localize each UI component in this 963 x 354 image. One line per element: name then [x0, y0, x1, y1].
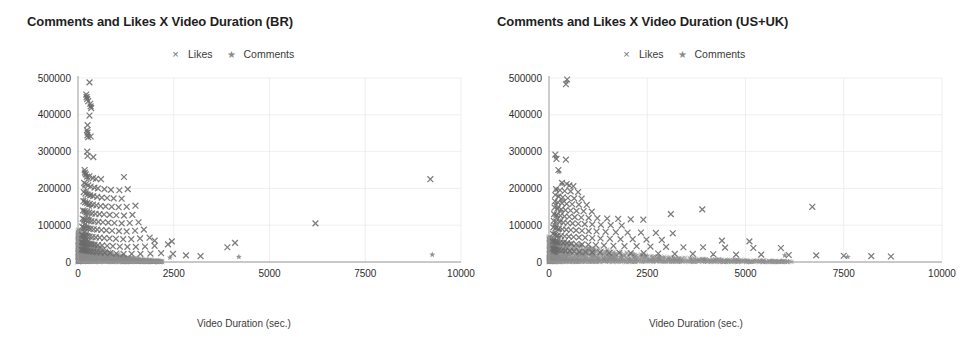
svg-text:0: 0 [75, 268, 81, 279]
legend-br: × Likes ★ Comments [170, 48, 294, 60]
legend-item-likes[interactable]: × Likes [170, 48, 213, 60]
legend-item-likes[interactable]: × Likes [621, 48, 664, 60]
legend-item-comments[interactable]: ★ Comments [677, 48, 746, 60]
figure-canvas: Comments and Likes X Video Duration (BR)… [0, 0, 963, 354]
svg-text:10000: 10000 [447, 268, 475, 279]
cross-marker-icon: × [170, 49, 181, 60]
legend-item-comments[interactable]: ★ Comments [226, 48, 295, 60]
svg-text:2500: 2500 [163, 268, 186, 279]
x-axis-label-br: Video Duration (sec.) [197, 318, 291, 329]
plot-area-br: 0100000200000300000400000500000025005000… [0, 70, 481, 300]
svg-text:200000: 200000 [38, 183, 72, 194]
svg-text:0: 0 [536, 257, 542, 268]
x-axis-label-usuk: Video Duration (sec.) [649, 318, 743, 329]
chart-panel-usuk: Comments and Likes X Video Duration (US+… [481, 0, 962, 354]
legend-label-comments: Comments [695, 48, 746, 60]
svg-text:10000: 10000 [928, 268, 956, 279]
svg-text:300000: 300000 [509, 146, 543, 157]
svg-text:100000: 100000 [38, 220, 72, 231]
svg-text:500000: 500000 [38, 73, 72, 84]
svg-text:5000: 5000 [258, 268, 281, 279]
svg-text:100000: 100000 [509, 220, 543, 231]
svg-text:0: 0 [65, 257, 71, 268]
legend-label-likes: Likes [188, 48, 213, 60]
legend-label-likes: Likes [639, 48, 664, 60]
legend-usuk: × Likes ★ Comments [621, 48, 745, 60]
page-title-br: Comments and Likes X Video Duration (BR) [27, 14, 293, 29]
scatter-plot-br: 0100000200000300000400000500000025005000… [0, 70, 481, 300]
cross-marker-icon: × [621, 49, 632, 60]
svg-text:400000: 400000 [38, 109, 72, 120]
chart-panel-br: Comments and Likes X Video Duration (BR)… [0, 0, 481, 354]
svg-text:200000: 200000 [509, 183, 543, 194]
svg-text:7500: 7500 [833, 268, 856, 279]
svg-text:400000: 400000 [509, 109, 543, 120]
svg-text:7500: 7500 [354, 268, 377, 279]
svg-text:5000: 5000 [734, 268, 757, 279]
svg-text:300000: 300000 [38, 146, 72, 157]
svg-text:2500: 2500 [636, 268, 659, 279]
legend-label-comments: Comments [244, 48, 295, 60]
svg-text:0: 0 [546, 268, 552, 279]
plot-area-usuk: 0100000200000300000400000500000025005000… [481, 70, 962, 300]
scatter-plot-usuk: 0100000200000300000400000500000025005000… [481, 70, 962, 300]
svg-text:500000: 500000 [509, 73, 543, 84]
star-marker-icon: ★ [677, 49, 688, 60]
star-marker-icon: ★ [226, 49, 237, 60]
page-title-usuk: Comments and Likes X Video Duration (US+… [497, 14, 788, 29]
